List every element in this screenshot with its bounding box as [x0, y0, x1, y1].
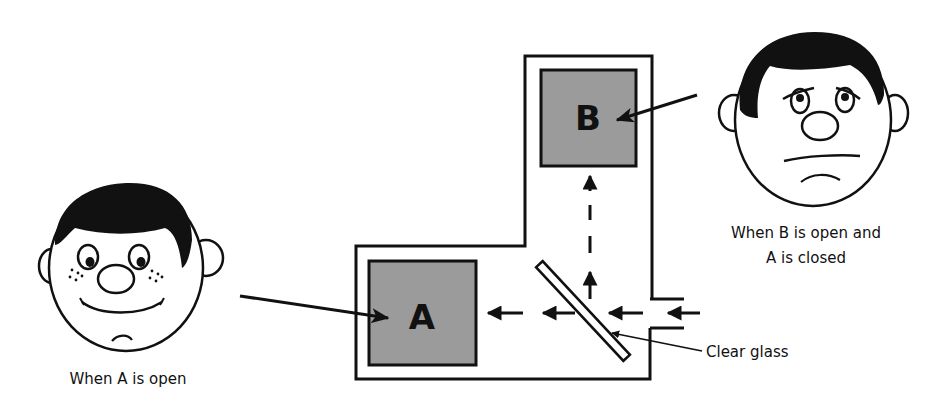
- nose: [98, 265, 134, 293]
- arrow-to-a: [240, 296, 388, 318]
- box-b-label: B: [575, 98, 601, 138]
- clear-glass: [536, 261, 630, 361]
- nose: [802, 112, 838, 140]
- box-a: A: [369, 261, 476, 365]
- sad-face: When B is open and A is closed: [719, 32, 908, 267]
- caption-happy: When A is open: [69, 370, 186, 388]
- caption-sad-line2: A is closed: [766, 249, 846, 267]
- box-a-label: A: [409, 297, 436, 337]
- happy-face: When A is open: [39, 183, 223, 388]
- caption-glass: Clear glass: [706, 343, 789, 361]
- diagram-canvas: B A: [0, 0, 934, 407]
- diagram-svg: B A: [0, 0, 934, 407]
- caption-sad-line1: When B is open and: [731, 224, 881, 242]
